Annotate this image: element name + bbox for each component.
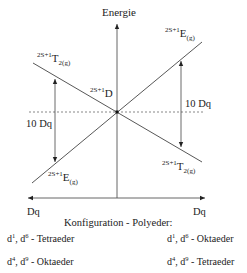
term-label-upper-right: 2S+1E(g) [165, 28, 195, 39]
term-symbol: T [177, 160, 184, 172]
dq-axis-left-label: Dq [27, 207, 40, 218]
term-label-upper-left: 2S+1T2(g) [37, 53, 70, 64]
term-multiplicity: 2S+1 [165, 26, 180, 34]
center-point [116, 111, 119, 114]
term-multiplicity: 2S+1 [48, 170, 63, 178]
splitting-label-left: 10 Dq [26, 119, 52, 130]
config-left-2: d4, d9 - Oktaeder [7, 256, 73, 267]
term-symbol: D [105, 87, 113, 99]
term-label-lower-right: 2S+1T2(g) [162, 161, 195, 172]
term-symbol: E [63, 171, 70, 183]
term-subscript: (g) [187, 34, 195, 42]
term-symbol: T [52, 52, 59, 64]
config-right-2: d4, d9 - Tetraeder [167, 256, 234, 267]
term-subscript: 2(g) [184, 167, 196, 175]
config-left-1: d1, d6 - Tetraeder [7, 233, 74, 244]
term-multiplicity: 2S+1 [162, 159, 177, 167]
term-multiplicity: 2S+1 [90, 86, 105, 94]
term-multiplicity: 2S+1 [37, 51, 52, 59]
config-right-1: d1, d6 - Oktaeder [167, 233, 233, 244]
energy-axis-label: Energie [102, 7, 136, 18]
splitting-label-right: 10 Dq [185, 99, 211, 110]
term-symbol: E [180, 27, 187, 39]
term-label-lower-left: 2S+1E(g) [48, 172, 78, 183]
term-subscript: 2(g) [59, 59, 71, 67]
term-subscript: (g) [70, 178, 78, 186]
caption: Konfiguration - Polyeder: [64, 218, 172, 229]
dq-axis-right-label: Dq [193, 207, 206, 218]
center-term-label: 2S+1D [90, 88, 113, 99]
